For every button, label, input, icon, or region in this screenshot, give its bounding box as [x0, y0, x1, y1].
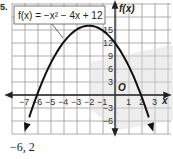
answer-text: −6, 2: [10, 140, 35, 155]
x-tick-label: −3: [71, 97, 81, 107]
x-tick-label: −5: [45, 97, 55, 107]
x-tick-label: −7: [19, 97, 29, 107]
function-label: f(x) = −x² − 4x + 12: [18, 10, 103, 21]
parabola-graph: −7−6−5−4−3−2−1123 1512963−3−6 f(x) x O f…: [0, 0, 173, 159]
label-pointer: [52, 24, 63, 38]
x-tick-label: 3: [152, 97, 157, 107]
y-tick-label: −6: [103, 116, 113, 126]
y-tick-label: 6: [108, 64, 113, 74]
y-tick-label: 3: [108, 77, 113, 87]
curve-left-arrow-icon: [24, 122, 31, 132]
x-axis-title: x: [161, 95, 168, 106]
x-tick-label: 1: [126, 97, 131, 107]
y-tick-label: −3: [103, 103, 113, 113]
x-tick-label: −2: [84, 97, 94, 107]
y-axis-up-arrow-icon: [113, 2, 118, 8]
x-axis-left-arrow-icon: [6, 93, 12, 98]
origin-label: O: [118, 82, 126, 93]
y-axis-title: f(x): [119, 3, 135, 14]
x-tick-label: −4: [58, 97, 68, 107]
y-tick-label: 15: [103, 25, 113, 35]
y-tick-label: 9: [108, 51, 113, 61]
